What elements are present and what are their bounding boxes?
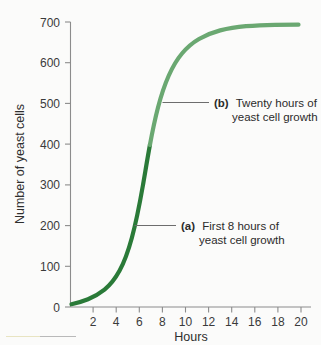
growth-curve-first-8-hours	[72, 145, 150, 304]
y-tick-label: 300	[40, 178, 60, 192]
y-tick-label: 0	[53, 301, 60, 315]
y-tick-label: 400	[40, 138, 60, 152]
annotation-b-line1: (b) Twenty hours of	[214, 97, 318, 109]
annotation-a-line2: yeast cell growth	[199, 234, 285, 246]
x-tick-marks	[93, 307, 301, 313]
x-tick-label: 10	[179, 315, 193, 329]
y-tick-labels: 700 600 500 400 300 200 100 0	[40, 16, 60, 315]
y-tick-label: 100	[40, 260, 60, 274]
x-tick-label: 6	[136, 315, 143, 329]
annotation-a-prefix: (a)	[181, 220, 195, 232]
y-tick-label: 600	[40, 56, 60, 70]
x-tick-label: 20	[294, 315, 308, 329]
chart-page: 700 600 500 400 300 200 100 0	[0, 0, 321, 345]
annotation-b-prefix: (b)	[214, 97, 229, 109]
y-tick-label: 500	[40, 97, 60, 111]
chart-canvas: 700 600 500 400 300 200 100 0	[0, 0, 321, 345]
y-tick-marks	[65, 22, 71, 307]
y-tick-label: 700	[40, 16, 60, 30]
x-tick-label: 18	[271, 315, 285, 329]
x-tick-label: 4	[113, 315, 120, 329]
x-tick-label: 2	[90, 315, 97, 329]
yeast-growth-figure: 700 600 500 400 300 200 100 0	[0, 0, 321, 345]
y-tick-label: 200	[40, 219, 60, 233]
x-tick-label: 8	[159, 315, 166, 329]
annotation-a-text1: First 8 hours of	[202, 220, 279, 232]
x-axis-title: Hours	[174, 330, 207, 344]
annotation-b-text1: Twenty hours of	[236, 97, 318, 109]
annotation-a-line1: (a) First 8 hours of	[181, 220, 280, 232]
annotation-b-line2: yeast cell growth	[232, 111, 318, 123]
x-tick-label: 16	[248, 315, 262, 329]
y-axis-title: Number of yeast cells	[13, 104, 27, 224]
x-tick-label: 14	[225, 315, 239, 329]
x-tick-label: 12	[202, 315, 216, 329]
growth-curve-remaining-hours	[150, 25, 299, 145]
x-tick-labels: 2 4 6 8 10 12 14 16 18 20	[90, 315, 308, 329]
